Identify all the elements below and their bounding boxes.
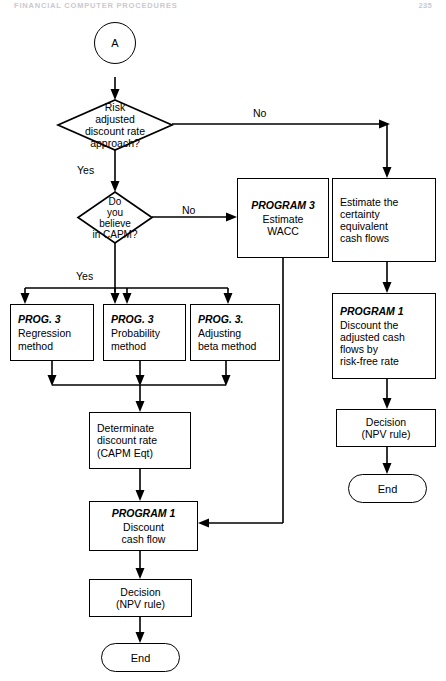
- prog3-regression-program-label: PROG. 3: [18, 313, 61, 326]
- prog3-regression-line-1: Regression: [18, 327, 71, 339]
- prog3-beta-line-1: Adjusting: [198, 327, 241, 339]
- process-decision-npv-rule-left: Decision (NPV rule): [89, 579, 192, 617]
- prog3-beta-program-label: PROG. 3.: [198, 313, 244, 326]
- process-decision-npv-rule-right: Decision (NPV rule): [336, 409, 436, 447]
- prog3-regression-line-2: method: [18, 340, 53, 352]
- program1-riskfree-program-label: PROGRAM 1: [340, 305, 404, 318]
- connector-a: A: [94, 22, 136, 64]
- estimate-ce-line-3: equivalent: [340, 220, 388, 232]
- estimate-ce-line-1: Estimate the: [340, 196, 398, 208]
- process-determinate-discount-rate: Determinate discount rate (CAPM Eqt): [89, 412, 191, 469]
- diamond-shape: [58, 100, 172, 150]
- program1-discount-line-2: cash flow: [122, 533, 166, 545]
- terminator-end-right: End: [348, 474, 427, 503]
- process-prog3-probability-method: PROG. 3 Probability method: [103, 304, 186, 361]
- end-right-label: End: [378, 483, 398, 495]
- determinate-rate-line-2: discount rate: [97, 434, 157, 446]
- prog3-beta-line-2: beta method: [198, 340, 256, 352]
- decision-npv-right-line-2: (NPV rule): [361, 428, 410, 440]
- program1-riskfree-line-1: Discount the: [340, 319, 398, 331]
- prog3-probability-line-1: Probability: [111, 327, 160, 339]
- decision-risk-adjusted-discount-rate: Risk adjusted discount rate approach?: [58, 100, 172, 150]
- program1-discount-program-label: PROGRAM 1: [112, 507, 176, 520]
- process-prog3-regression-method: PROG. 3 Regression method: [10, 304, 94, 361]
- prog3-probability-program-label: PROG. 3: [111, 313, 154, 326]
- process-program1-riskfree-discount: PROGRAM 1 Discount the adjusted cash flo…: [332, 293, 436, 379]
- program1-riskfree-line-2: adjusted cash: [340, 331, 405, 343]
- edge-label-radr-yes: Yes: [77, 165, 94, 176]
- process-estimate-certainty-equivalent: Estimate the certainty equivalent cash f…: [332, 178, 436, 262]
- estimate-ce-line-4: cash flows: [340, 232, 389, 244]
- diamond-shape: [78, 192, 152, 243]
- program3-wacc-line-1: Estimate: [263, 213, 304, 225]
- edge-label-capm-yes: Yes: [76, 271, 93, 282]
- program1-discount-line-1: Discount: [123, 521, 164, 533]
- connector-a-label: A: [111, 37, 118, 49]
- prog3-probability-line-2: method: [111, 340, 146, 352]
- determinate-rate-line-1: Determinate: [97, 422, 154, 434]
- edge-label-radr-no: No: [253, 108, 266, 119]
- decision-npv-right-line-1: Decision: [366, 416, 406, 428]
- decision-believe-in-capm: Do you believe in CAPM?: [78, 192, 152, 243]
- determinate-rate-line-3: (CAPM Eqt): [97, 447, 153, 459]
- edge-label-capm-no: No: [182, 205, 195, 216]
- program1-riskfree-line-3: flows by: [340, 343, 378, 355]
- process-program1-discount-cash-flow: PROGRAM 1 Discount cash flow: [89, 501, 198, 551]
- decision-npv-left-line-2: (NPV rule): [116, 598, 165, 610]
- estimate-ce-line-2: certainty: [340, 208, 380, 220]
- flowchart-canvas: FINANCIAL COMPUTER PROCEDURES 235: [0, 0, 446, 681]
- program3-wacc-line-2: WACC: [267, 225, 299, 237]
- process-program3-estimate-wacc: PROGRAM 3 Estimate WACC: [237, 178, 329, 258]
- program3-wacc-program-label: PROGRAM 3: [251, 199, 315, 212]
- terminator-end-left: End: [101, 643, 180, 672]
- end-left-label: End: [131, 652, 151, 664]
- decision-npv-left-line-1: Decision: [120, 586, 160, 598]
- program1-riskfree-line-4: risk-free rate: [340, 355, 399, 367]
- process-prog3-adjusting-beta-method: PROG. 3. Adjusting beta method: [190, 304, 280, 361]
